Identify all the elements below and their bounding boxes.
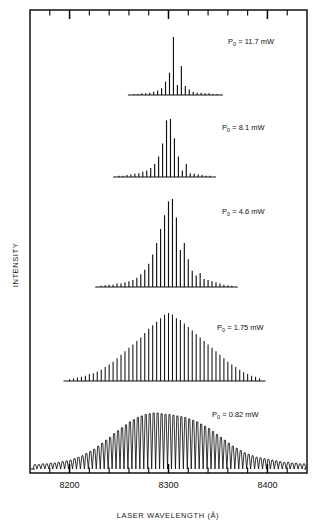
trace-power-label: P0 = 1.75 mW [217,323,265,333]
spectra-figure: 820083008400 P0 = 11.7 mWP0 = 8.1 mWP0 =… [0,0,320,527]
x-tick-label: 8400 [257,480,277,490]
y-axis-title: INTENSITY [11,243,20,288]
x-tick-label: 8300 [158,480,178,490]
figure-svg: 820083008400 P0 = 11.7 mWP0 = 8.1 mWP0 =… [0,0,320,527]
x-axis-title: LASER WAVELENGTH (Å) [117,511,219,520]
x-tick-label: 8200 [60,480,80,490]
trace-power-label: P0 = 0.82 mW [212,410,260,420]
